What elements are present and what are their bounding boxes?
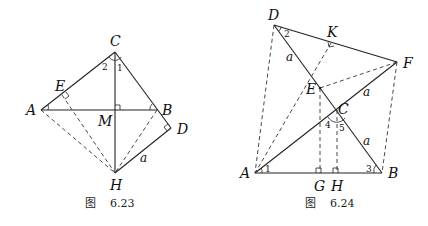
caption-number: 6.23 <box>110 197 135 210</box>
figure-6-24: D K F E C A B G H 2 1 3 4 5 a a a 图 6.24 <box>238 7 414 210</box>
segment-BH <box>115 110 157 173</box>
point-label-A: A <box>24 102 36 118</box>
segment-AF <box>255 62 397 173</box>
segment-DB <box>274 25 382 173</box>
segment-label-CB: a <box>363 134 370 148</box>
point-label-D: D <box>267 7 279 23</box>
segment-FB <box>382 62 397 173</box>
angle-label-2: 2 <box>102 62 108 72</box>
segment-label-CF: a <box>363 85 370 99</box>
angle-arc-B-icon <box>150 104 152 110</box>
angle-arc-1-icon <box>261 168 262 173</box>
angle-label-3: 3 <box>366 164 372 174</box>
angle-label-2: 2 <box>284 29 290 39</box>
segment-label-a: a <box>140 151 147 165</box>
segment-label-DE: a <box>286 50 293 64</box>
point-label-E: E <box>54 78 65 94</box>
segment-AC <box>41 52 115 110</box>
segment-DA <box>255 25 274 173</box>
segment-EF <box>320 62 397 88</box>
angle-arc-3-icon <box>374 165 376 173</box>
angle-label-4: 4 <box>325 120 331 130</box>
segment-EH <box>62 95 115 173</box>
point-label-B: B <box>387 165 398 181</box>
caption-prefix: 图 <box>85 197 96 210</box>
point-label-K: K <box>326 24 339 40</box>
right-angle-D-icon <box>164 124 168 131</box>
point-label-H: H <box>109 177 123 193</box>
figure-canvas: C A B D E M H 2 1 a 图 6.23 <box>0 0 428 226</box>
point-label-G: G <box>314 178 325 194</box>
angle-label-1: 1 <box>117 63 123 73</box>
angle-arc-2-icon <box>279 27 281 31</box>
caption-prefix: 图 <box>305 197 316 210</box>
point-label-F: F <box>402 55 414 71</box>
point-label-B: B <box>161 102 172 118</box>
point-label-C: C <box>338 101 349 117</box>
point-label-C: C <box>110 33 121 49</box>
point-label-M: M <box>97 113 113 129</box>
right-angle-M-icon <box>115 105 120 110</box>
point-E-dot <box>319 87 322 90</box>
right-angle-E-icon <box>65 92 69 99</box>
point-label-H: H <box>330 178 344 194</box>
angle-label-5: 5 <box>339 123 345 133</box>
point-label-E: E <box>305 81 316 97</box>
figure-6-23: C A B D E M H 2 1 a 图 6.23 <box>24 33 188 210</box>
point-label-D: D <box>176 121 188 137</box>
point-label-A: A <box>238 165 250 181</box>
geometry-diagrams: C A B D E M H 2 1 a 图 6.23 <box>0 0 428 226</box>
caption-number: 6.24 <box>330 197 355 210</box>
angle-label-1: 1 <box>265 164 271 174</box>
